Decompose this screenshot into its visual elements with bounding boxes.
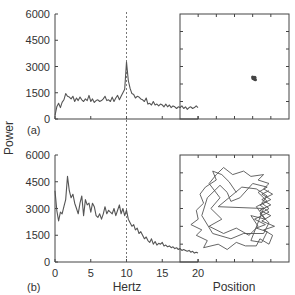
x-tick-label: 0: [52, 267, 58, 279]
y-tick-label: 4500: [26, 34, 50, 46]
x-axis-title-position: Position: [213, 280, 256, 294]
position-trajectory: [191, 168, 275, 250]
y-tick-label: 3000: [26, 203, 50, 215]
x-tick-label: 5: [88, 267, 94, 279]
y-tick-label: 1500: [26, 87, 50, 99]
spectrum-panel-b: 0150030004500600005101520: [26, 149, 205, 279]
y-tick-label: 3000: [26, 61, 50, 73]
y-tick-label: 1500: [26, 229, 50, 241]
x-tick-label: 10: [120, 267, 132, 279]
panel-label-b: (b): [27, 281, 40, 293]
y-axis-title-power: Power: [2, 121, 16, 155]
y-tick-label: 4500: [26, 176, 50, 188]
position-panel-b: [180, 155, 289, 262]
position-point: [254, 78, 257, 81]
x-axis-title-hertz: Hertz: [113, 280, 142, 294]
y-tick-label: 0: [44, 256, 50, 268]
y-tick-label: 6000: [26, 8, 50, 20]
spectrum-panel-a: 01500300045006000: [26, 8, 198, 125]
panel-label-a: (a): [27, 124, 40, 136]
y-tick-label: 6000: [26, 149, 50, 161]
x-tick-label: 15: [156, 267, 168, 279]
x-tick-label: 20: [192, 267, 204, 279]
figure-canvas: 0150030004500600001500300045006000051015…: [0, 0, 295, 295]
position-box: [180, 155, 289, 262]
y-tick-label: 0: [44, 113, 50, 125]
position-box: [180, 14, 289, 119]
position-panel-a: [180, 14, 289, 119]
